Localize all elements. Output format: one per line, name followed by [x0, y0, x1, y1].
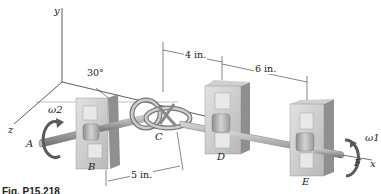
- y-axis-label: y: [54, 6, 60, 16]
- point-label-a: A: [26, 139, 33, 149]
- diagram-drawing: [0, 0, 381, 194]
- omega-1-label: ω1: [365, 133, 380, 143]
- point-label-b: B: [88, 162, 95, 172]
- omega-2-label: ω2: [48, 105, 63, 115]
- point-label-d: D: [217, 152, 225, 162]
- point-label-c: C: [155, 132, 163, 142]
- z-axis-label: z: [8, 125, 13, 135]
- dimension-5in: 5 in.: [130, 170, 153, 180]
- bearing-block-e: [290, 99, 334, 176]
- dimension-6in: 6 in.: [254, 64, 277, 74]
- figure-caption: Fig. P15.218: [2, 187, 60, 194]
- x-axis-label: x: [370, 159, 376, 169]
- bearing-block-d: [205, 80, 250, 154]
- point-label-e: E: [302, 177, 309, 187]
- bearing-block-b: [76, 94, 120, 169]
- shaft-diagram: y z x 30° A B C D E F ω2 ω1 4 in. 6 in. …: [0, 0, 381, 194]
- angle-label: 30°: [86, 68, 105, 78]
- dimension-4in: 4 in.: [184, 50, 207, 60]
- point-label-f: F: [354, 158, 361, 168]
- coordinate-axes: [14, 8, 230, 124]
